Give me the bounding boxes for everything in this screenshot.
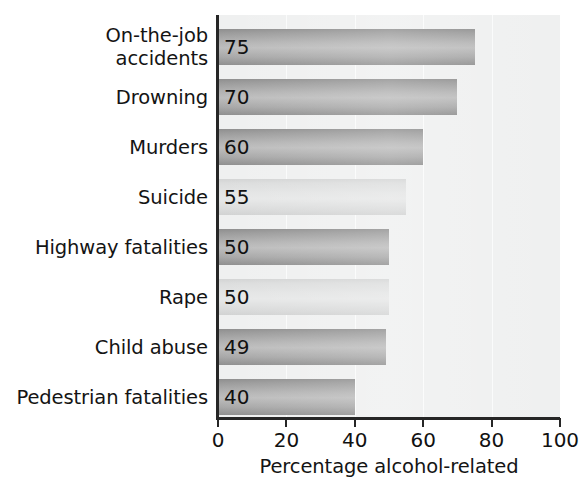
- category-axis-labels: On-the-job accidentsDrowningMurdersSuici…: [0, 15, 214, 418]
- bar-value-label: 70: [224, 87, 249, 107]
- x-axis-tick-label: 40: [325, 428, 385, 452]
- bar-value-label: 75: [224, 37, 249, 57]
- plot-scan-band: [423, 15, 424, 418]
- category-label: Murders: [0, 136, 208, 159]
- y-axis-line: [216, 15, 219, 419]
- x-axis-tick: [217, 418, 219, 427]
- plot-scan-band: [492, 15, 493, 418]
- bar: 75: [218, 29, 475, 65]
- bar-fill: [218, 29, 475, 65]
- bar-value-label: 49: [224, 337, 249, 357]
- x-axis-tick: [491, 418, 493, 427]
- bar-fill: [218, 79, 457, 115]
- bar-value-label: 40: [224, 387, 249, 407]
- category-label: Highway fatalities: [0, 236, 208, 259]
- x-axis-title: Percentage alcohol-related: [218, 455, 560, 479]
- bar-value-label: 50: [224, 287, 249, 307]
- x-axis-tick-label: 20: [256, 428, 316, 452]
- category-label: Child abuse: [0, 336, 208, 359]
- plot-area: 7570605550504940: [218, 15, 560, 418]
- bar: 70: [218, 79, 457, 115]
- bar-value-label: 50: [224, 237, 249, 257]
- bar: 49: [218, 329, 386, 365]
- x-axis-line: [216, 417, 560, 420]
- x-axis-tick: [422, 418, 424, 427]
- x-axis-tick-label: 80: [462, 428, 522, 452]
- bar-chart: On-the-job accidentsDrowningMurdersSuici…: [0, 0, 587, 487]
- category-label: Pedestrian fatalities: [0, 386, 208, 409]
- x-axis-tick: [354, 418, 356, 427]
- bar: 60: [218, 129, 423, 165]
- category-label: Drowning: [0, 86, 208, 109]
- category-label: Rape: [0, 286, 208, 309]
- bar: 55: [218, 179, 406, 215]
- x-axis-tick-label: 100: [530, 428, 587, 452]
- bar: 50: [218, 279, 389, 315]
- bar-value-label: 60: [224, 137, 249, 157]
- bar: 50: [218, 229, 389, 265]
- x-axis-tick: [559, 418, 561, 427]
- x-axis-tick-label: 60: [393, 428, 453, 452]
- bar-value-label: 55: [224, 187, 249, 207]
- category-label: On-the-job accidents: [0, 24, 208, 70]
- x-axis-tick: [285, 418, 287, 427]
- x-axis-tick-label: 0: [188, 428, 248, 452]
- bar: 40: [218, 379, 355, 415]
- category-label: Suicide: [0, 186, 208, 209]
